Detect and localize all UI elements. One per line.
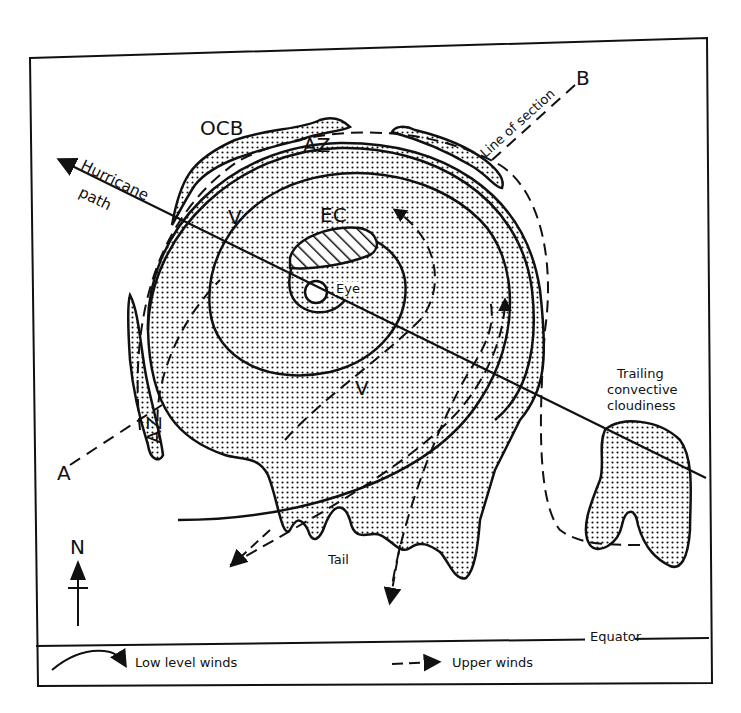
legend-upper-symbol [392, 662, 438, 664]
legend-upper-label: Upper winds [452, 656, 533, 669]
hurricane-diagram [0, 0, 741, 713]
legend-low-level-label: Low level winds [135, 656, 237, 669]
section-line-b [492, 85, 575, 160]
eye [305, 281, 327, 303]
label-az-left: AZ [144, 416, 164, 443]
label-trailing-2: convective [607, 383, 678, 396]
label-v-upper: V [228, 207, 242, 227]
label-ec: EC [320, 205, 347, 225]
label-ocb: OCB [200, 118, 243, 138]
label-v-lower: V [355, 378, 369, 398]
label-north: N [70, 537, 85, 557]
label-tail: Tail [328, 553, 349, 566]
legend-low-level-symbol [52, 651, 125, 670]
label-trailing-3: cloudiness [607, 399, 676, 412]
label-equator: Equator [590, 630, 641, 643]
label-point-a: A [57, 463, 71, 483]
label-point-b: B [576, 68, 590, 88]
label-az-top: AZ [303, 135, 330, 155]
label-trailing-1: Trailing [617, 367, 664, 380]
label-eye: Eye [335, 282, 361, 295]
north-arrow [68, 560, 88, 626]
